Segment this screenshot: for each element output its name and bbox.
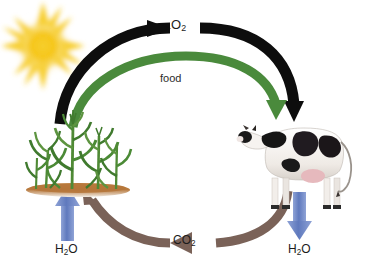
carbon-dioxide-label-subscript: 2 [191,239,196,248]
carbon-dioxide-label-text: CO [173,233,191,247]
water-label-left-subscript: 2 [64,248,69,257]
food-arrow [73,56,287,127]
carbon-oxygen-cycle-diagram: O2 food CO2 H2O H2O [0,0,365,269]
oxygen-label: O2 [171,18,186,31]
water-label-left-text: H [55,242,64,256]
water-label-left-suffix: O [68,242,77,256]
corn-plants-image [26,110,131,197]
food-label: food [160,73,181,84]
water-label-right-subscript: 2 [297,248,302,257]
carbon-dioxide-label: CO2 [173,234,196,246]
oxygen-label-subscript: 2 [181,23,186,33]
water-label-right-suffix: O [301,242,310,256]
oxygen-label-text: O [171,17,181,32]
water-label-right: H2O [288,243,311,255]
water-label-left: H2O [55,243,78,255]
oxygen-arrow [60,20,304,124]
water-label-right-text: H [288,242,297,256]
diagram-canvas [0,0,365,269]
